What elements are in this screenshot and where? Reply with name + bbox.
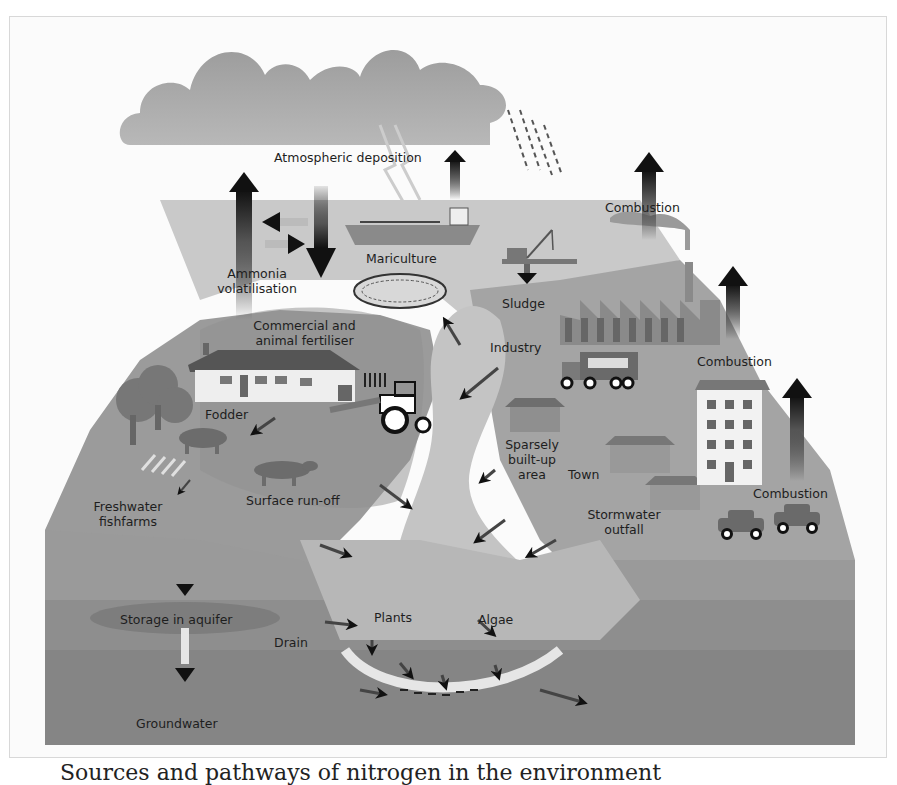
label-storage-in-aquifer: Storage in aquifer: [120, 612, 232, 627]
label-combustion-top: Combustion: [605, 200, 680, 215]
label-ammonia-volatilisation: Ammonia volatilisation: [212, 266, 302, 296]
label-commercial-fertiliser: Commercial and animal fertiliser: [252, 318, 357, 348]
rain-icon: [508, 110, 562, 175]
label-drain: Drain: [274, 635, 308, 650]
figure-caption: Sources and pathways of nitrogen in the …: [60, 760, 661, 785]
label-surface-runoff: Surface run-off: [246, 493, 340, 508]
label-combustion-bottom: Combustion: [753, 486, 828, 501]
label-algae: Algae: [478, 612, 513, 627]
up-from-ship-arrow-icon: [444, 150, 466, 200]
apartment-block-icon: [695, 380, 770, 485]
label-atmospheric-deposition: Atmospheric deposition: [274, 150, 422, 165]
label-freshwater-fishfarms: Freshwater fishfarms: [88, 499, 168, 529]
label-fodder: Fodder: [205, 407, 248, 422]
mariculture-net-icon: [354, 274, 446, 308]
label-groundwater: Groundwater: [136, 716, 218, 731]
label-combustion-middle: Combustion: [697, 354, 772, 369]
cloud-icon: [120, 50, 506, 145]
label-town: Town: [568, 467, 599, 482]
label-stormwater-outfall: Stormwater outfall: [584, 507, 664, 537]
label-plants: Plants: [374, 610, 412, 625]
label-mariculture: Mariculture: [366, 251, 437, 266]
label-sludge: Sludge: [502, 296, 545, 311]
label-industry: Industry: [490, 340, 541, 355]
label-sparsely-built-up: Sparsely built-up area: [500, 437, 564, 482]
